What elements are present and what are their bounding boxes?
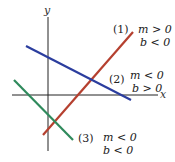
y-axis-label: y [43, 4, 51, 17]
line-1-intercept-condition: b < 0 [140, 36, 170, 49]
line-3-slope-condition: m < 0 [103, 131, 137, 144]
line-2-slope-condition: m < 0 [130, 69, 164, 82]
line-2-intercept-condition: b > 0 [132, 82, 162, 95]
line-2-label: (2) [109, 73, 125, 86]
line-1-slope-condition: m > 0 [138, 23, 172, 36]
line-1-label: (1) [113, 23, 129, 36]
line-3-label: (3) [78, 132, 94, 145]
line-3-intercept-condition: b < 0 [103, 144, 133, 157]
slope-intercept-diagram: x y (1) m > 0 b < 0 (2) m < 0 b > 0 (3) … [0, 0, 175, 162]
